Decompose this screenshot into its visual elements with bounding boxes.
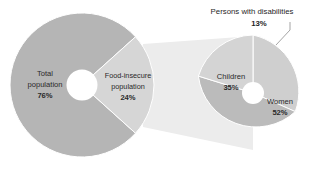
donut-hole-right	[242, 82, 264, 104]
population-donut: Total population 76% Food-insecure popul…	[10, 13, 154, 157]
persons-with-disabilities-value: 13%	[251, 19, 267, 28]
chart-canvas: Total population 76% Food-insecure popul…	[0, 0, 321, 169]
food-insecure-value: 24%	[120, 93, 135, 102]
food-insecure-label-line2: population	[111, 82, 145, 91]
total-population-label-line2: population	[27, 80, 62, 89]
women-value: 52%	[272, 108, 287, 117]
women-label: Women	[267, 97, 293, 106]
total-population-value: 76%	[37, 91, 52, 100]
persons-with-disabilities-label: Persons with disabilities	[211, 7, 294, 16]
children-value: 35%	[223, 83, 238, 92]
total-population-label-line1: Total	[37, 69, 53, 78]
food-insecure-label-line1: Food-insecure	[105, 71, 152, 80]
donut-chart-figure: Total population 76% Food-insecure popul…	[0, 0, 321, 169]
food-insecure-breakdown-donut: Children 35% Women 52% Persons with disa…	[198, 7, 298, 127]
children-label: Children	[217, 72, 245, 81]
donut-hole-left	[67, 70, 98, 101]
disabilities-leader-line	[276, 22, 290, 45]
